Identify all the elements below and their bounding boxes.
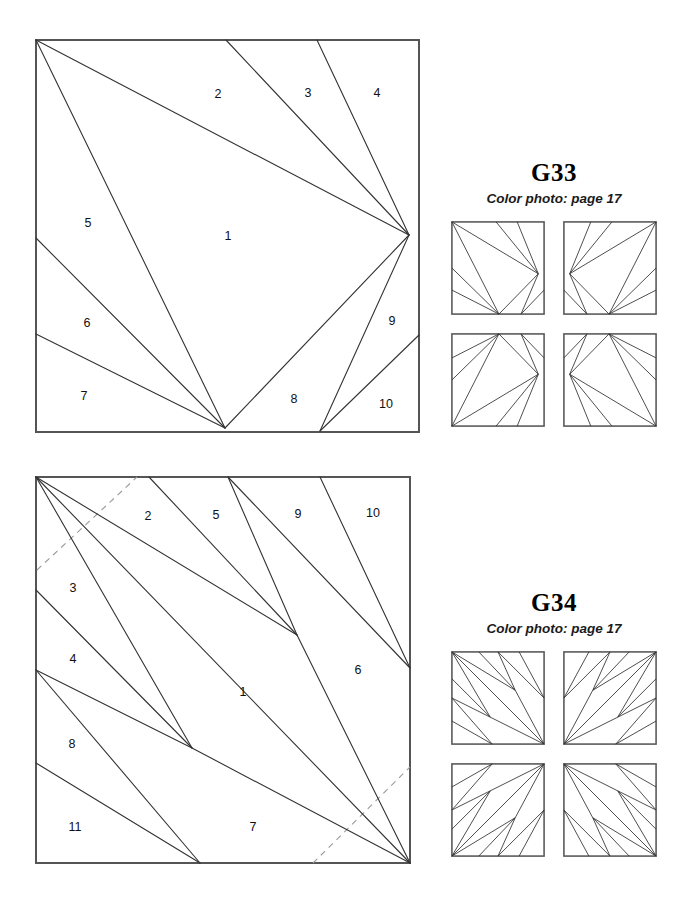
- mini-svg: [562, 762, 658, 858]
- mini-block-top-left: [450, 650, 546, 746]
- pattern-page: 1 2 3 4 5 6 7 8 9 10: [0, 0, 678, 905]
- mini-block-bottom-left: [450, 332, 546, 428]
- mini-svg: [562, 220, 658, 316]
- panel-subtitle-g33: Color photo: page 17: [430, 191, 678, 206]
- mini-svg: [450, 332, 546, 428]
- piece-number: 4: [70, 652, 77, 666]
- piece-number: 5: [213, 508, 220, 522]
- block-diagram-g34: 1 2 3 4 5 6 7 8 9 10 11: [0, 0, 440, 905]
- mini-frame: [452, 222, 544, 314]
- panel-subtitle-g34: Color photo: page 17: [430, 621, 678, 636]
- panel-title-g34: G34: [430, 590, 678, 615]
- panel-g33: G33 Color photo: page 17: [430, 160, 678, 428]
- piece-number: 3: [70, 581, 77, 595]
- piece-number: 1: [240, 685, 247, 699]
- mini-block-top-left: [450, 220, 546, 316]
- mini-svg: [450, 650, 546, 746]
- piece-number: 2: [145, 509, 152, 523]
- mini-block-bottom-right: [562, 332, 658, 428]
- mini-block-grid-g33: [450, 220, 658, 428]
- mini-block-top-right: [562, 650, 658, 746]
- mini-svg: [562, 332, 658, 428]
- mini-frame: [452, 334, 544, 426]
- block-svg-g34: 1 2 3 4 5 6 7 8 9 10 11: [0, 0, 440, 905]
- mini-svg: [450, 220, 546, 316]
- mini-block-grid-g34: [450, 650, 658, 858]
- mini-block-bottom-right: [562, 762, 658, 858]
- piece-number: 11: [69, 820, 82, 834]
- panel-g34: G34 Color photo: page 17: [430, 590, 678, 858]
- mini-svg: [450, 762, 546, 858]
- mini-block-top-right: [562, 220, 658, 316]
- piece-number: 10: [366, 506, 380, 520]
- mini-frame: [564, 334, 656, 426]
- piece-number: 8: [69, 737, 76, 751]
- piece-number: 9: [295, 507, 302, 521]
- piece-number: 6: [355, 663, 362, 677]
- mini-svg: [562, 650, 658, 746]
- piece-number: 7: [250, 820, 257, 834]
- panel-title-g33: G33: [430, 160, 678, 185]
- mini-frame: [564, 222, 656, 314]
- mini-block-bottom-left: [450, 762, 546, 858]
